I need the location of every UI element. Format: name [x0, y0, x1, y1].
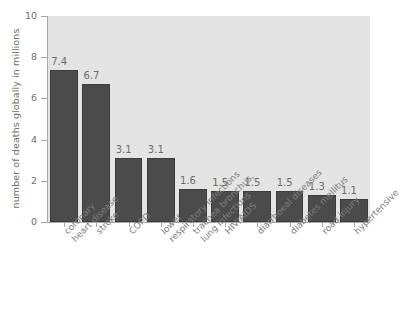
bar-value-label: 1.5 — [277, 178, 293, 188]
y-axis-tick-label: 2 — [7, 176, 37, 186]
y-axis-title: number of deaths globally in millions — [10, 11, 21, 226]
y-axis-tick-label: 10 — [7, 11, 37, 21]
y-axis-tick-label: 0 — [7, 217, 37, 227]
bar — [50, 70, 78, 222]
bar-value-label: 3.1 — [116, 145, 132, 155]
bar — [115, 158, 143, 222]
bar-value-label: 1.6 — [180, 176, 196, 186]
bar-value-label: 6.7 — [83, 71, 99, 81]
y-axis-tick-label: 6 — [7, 93, 37, 103]
y-axis-tick-label: 8 — [7, 52, 37, 62]
y-axis-tick-label: 4 — [7, 135, 37, 145]
bar — [147, 158, 175, 222]
bar-value-label: 7.4 — [51, 57, 67, 67]
bar-value-label: 3.1 — [148, 145, 164, 155]
